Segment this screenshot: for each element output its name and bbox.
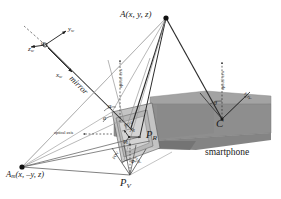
label-axis-xr-sub: R — [125, 141, 127, 145]
label-alpha-upper: α — [108, 103, 111, 109]
label-axis-xw: xw — [56, 72, 62, 80]
label-optical-axis-right-text: optical axis — [220, 71, 225, 90]
label-theta-right-text: θ — [214, 100, 217, 106]
label-alpha-axes: α — [41, 40, 44, 46]
label-optical-axis-left-text: optical axis — [54, 130, 73, 135]
label-optical-axis-left: optical axis — [54, 131, 73, 135]
label-principal-virtual: PV — [120, 178, 131, 190]
figure-canvas: A(x, y, z) Am(x, –y, z) C PR PV mirror s… — [0, 0, 281, 199]
label-camera-center: C — [216, 118, 223, 129]
label-optical-axis-mid-text: optical axis — [118, 69, 123, 88]
label-alpha-upper-text: α — [108, 103, 111, 109]
label-principal-virtual-sub: V — [126, 182, 130, 190]
label-axis-xw-sub: w — [59, 74, 62, 79]
label-axis-yr-sub: R — [132, 129, 134, 133]
label-point-a: A(x, y, z) — [120, 10, 152, 19]
label-point-a-mirror: Am(x, –y, z) — [6, 170, 44, 180]
label-point-a-mirror-args: (x, –y, z) — [15, 169, 44, 179]
label-theta-right: θ — [214, 100, 217, 106]
label-alpha-lower: α — [103, 115, 106, 121]
label-axis-yr: yR — [130, 127, 135, 134]
label-optical-axis-right: optical axis — [221, 71, 225, 90]
label-optical-axis-mid: optical axis — [119, 69, 123, 88]
label-axis-yw-sub: w — [71, 28, 74, 33]
label-principal-real-sub: R — [152, 134, 156, 142]
label-camera-center-text: C — [216, 117, 223, 129]
label-smartphone: smartphone — [205, 148, 249, 158]
label-alpha-axes-text: α — [41, 40, 44, 46]
label-phi-bottom: φ — [131, 158, 134, 164]
label-alpha-lower-text: α — [103, 115, 106, 121]
label-point-a-text: A(x, y, z) — [120, 9, 152, 19]
label-axis-xr: xR — [123, 139, 128, 146]
label-axis-yw: yw — [68, 26, 74, 34]
label-axis-zw: zw — [28, 46, 34, 54]
label-smartphone-text: smartphone — [205, 147, 249, 157]
label-phi-bottom-text: φ — [131, 158, 134, 164]
label-principal-real: PR — [146, 130, 157, 142]
label-axis-zw-sub: w — [31, 48, 34, 53]
